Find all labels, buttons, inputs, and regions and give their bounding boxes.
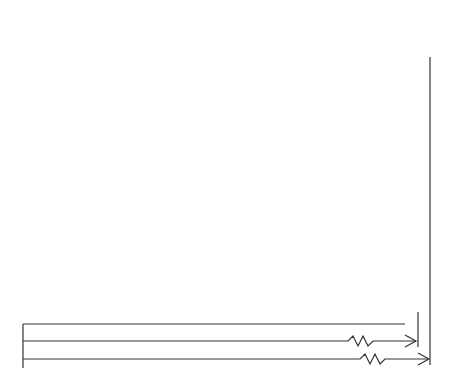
grid-and-arrows: [0, 0, 455, 385]
